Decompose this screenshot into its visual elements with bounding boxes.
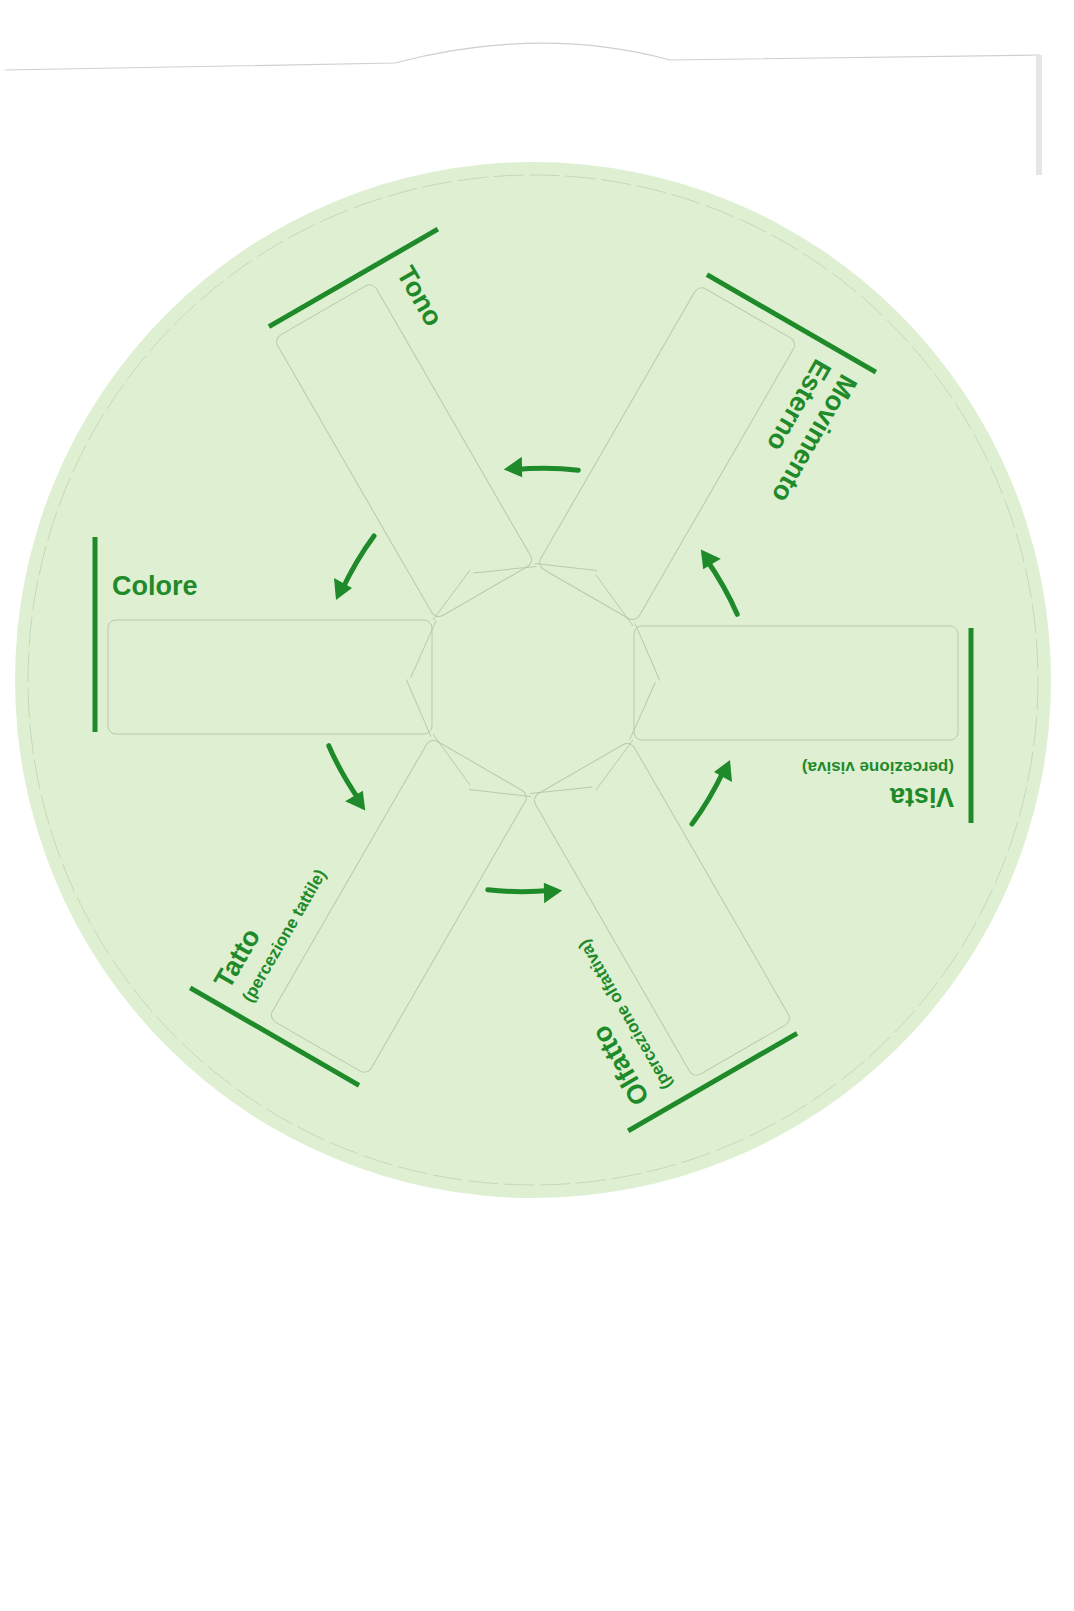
segment-title: Vista bbox=[889, 782, 954, 812]
page-right-shadow bbox=[1036, 55, 1042, 175]
segment-subtitle: (percezione visiva) bbox=[802, 758, 954, 777]
wheel-disc bbox=[15, 162, 1051, 1198]
segment-title: Colore bbox=[112, 571, 198, 601]
page-top-edge bbox=[5, 43, 1040, 70]
wheel-canvas: Colore Tono Movimento Esterno Vista (per… bbox=[0, 0, 1074, 1611]
